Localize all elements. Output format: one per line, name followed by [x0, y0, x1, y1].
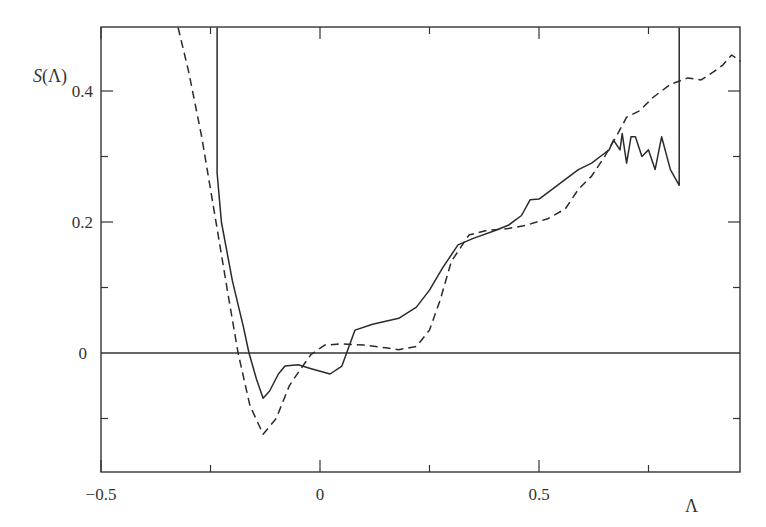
chart: −0.500.500.20.4 S(Λ) Λ: [0, 0, 766, 527]
y-tick-label: 0.2: [72, 213, 93, 232]
data-series: [178, 28, 740, 435]
axis-ticks: −0.500.500.20.4: [72, 27, 740, 504]
series-solid: [217, 28, 679, 399]
plot-border: [101, 27, 740, 472]
x-tick-label: 0.5: [528, 485, 549, 504]
plot-frame: [101, 27, 740, 472]
series-dashed: [178, 28, 740, 435]
x-axis-label: Λ: [685, 496, 698, 516]
y-tick-label: 0.4: [72, 82, 94, 101]
y-axis-label: S(Λ): [33, 66, 67, 87]
y-tick-label: 0: [79, 344, 88, 363]
x-tick-label: −0.5: [86, 485, 117, 504]
x-tick-label: 0: [316, 485, 325, 504]
